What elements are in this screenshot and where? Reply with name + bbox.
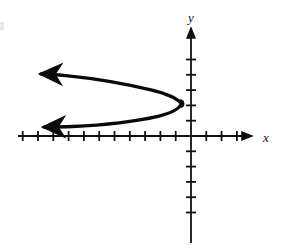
figure-background bbox=[0, 0, 283, 248]
y-axis-label: y bbox=[186, 10, 194, 25]
scan-artifact bbox=[0, 22, 4, 30]
x-axis-label: x bbox=[262, 130, 269, 145]
parabola-vertex-cap bbox=[181, 101, 183, 107]
coordinate-plane: x y bbox=[0, 0, 283, 248]
graph-figure: x y bbox=[0, 0, 283, 248]
